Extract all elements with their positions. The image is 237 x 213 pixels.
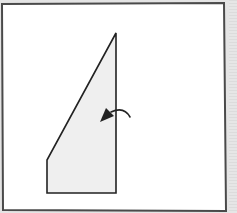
folding-diagram: [0, 0, 237, 213]
